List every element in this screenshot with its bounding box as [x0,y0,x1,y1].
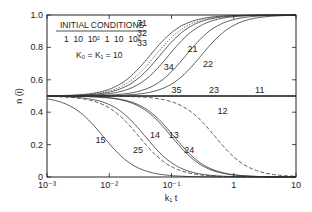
x-tick-label: 10 [291,180,301,190]
curve-label-21: 21 [187,44,197,54]
legend: INITIAL CONDITIONS 1 10 10² 1 10 10² K₀ … [56,20,146,60]
curve-label-14: 14 [150,130,160,140]
curve-label-35: 35 [172,85,182,95]
x-tick-label: 1 [231,180,236,190]
curve-label-15: 15 [95,135,105,145]
curve-label-13: 13 [169,130,179,140]
legend-params: K₀ = K₁ = 10 [76,50,123,60]
y-axis-label: n (i) [14,88,24,104]
legend-title: INITIAL CONDITIONS [60,20,145,30]
chart: 10⁻³10⁻²10⁻¹11000.20.40.60.81.0 INITIAL … [0,0,312,212]
y-tick-label: 0.2 [30,140,43,150]
y-tick-label: 0.8 [30,42,43,52]
y-tick-label: 0.6 [30,75,43,85]
curve-label-31: 31 [137,18,147,28]
y-tick-label: 0 [38,172,43,182]
curve-label-12: 12 [218,106,228,116]
x-tick-label: 10⁻¹ [162,180,180,190]
x-axis-label: k₁ t [165,193,178,203]
curve-label-23: 23 [209,85,219,95]
curve-label-22: 22 [203,59,213,69]
curve-label-25: 25 [133,145,143,155]
x-tick-label: 10⁻² [100,180,118,190]
curve-label-24: 24 [184,145,194,155]
curve-label-32: 32 [137,28,147,38]
y-tick-label: 0.4 [30,107,43,117]
legend-row: 1 10 10² 1 10 10² [64,34,141,44]
y-tick-label: 1.0 [30,10,43,20]
curve-label-34: 34 [164,62,174,72]
curve-label-11: 11 [255,85,264,95]
curve-label-33: 33 [137,38,147,48]
